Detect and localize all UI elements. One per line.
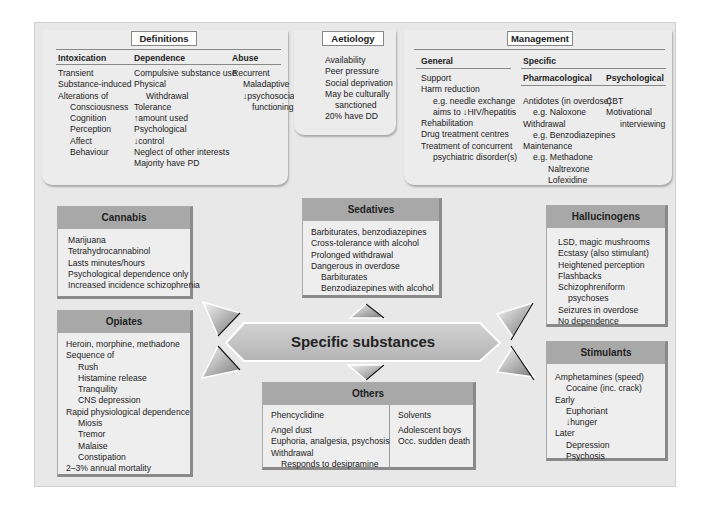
list-item: Angel dust — [271, 425, 389, 436]
opiates-title: Opiates — [58, 311, 190, 333]
sedatives-list: Barbiturates, benzodiazepinesCross-toler… — [311, 227, 434, 295]
list-item: psychoses — [558, 293, 650, 304]
list-item: Cross-tolerance with alcohol — [311, 238, 434, 249]
list-item: Lasts minutes/hours — [68, 258, 200, 269]
list-item: Histamine release — [66, 373, 190, 384]
list-item: Rapid physiological dependence — [66, 407, 190, 418]
others-title: Others — [263, 383, 473, 405]
list-item: Ecstasy (also stimulant) — [558, 248, 650, 259]
solvents-heading: Solvents — [398, 410, 431, 421]
list-item: Rush — [66, 362, 190, 373]
list-item: Euphoria, analgesia, psychosis — [271, 436, 389, 447]
list-item: Withdrawal — [271, 448, 389, 459]
arrow-up-sedatives — [350, 304, 384, 318]
list-item: Benzodiazepines with alcohol — [311, 283, 434, 294]
stimulants-box: Stimulants Amphetamines (speed)Cocaine (… — [546, 341, 668, 461]
cannabis-title: Cannabis — [58, 207, 190, 229]
list-item: Responds to desipramine — [271, 459, 389, 470]
opiates-list: Heroin, morphine, methadoneSequence ofRu… — [66, 339, 190, 475]
cannabis-list: MarijuanaTetrahydrocannabinolLasts minut… — [68, 235, 200, 291]
list-item: Schizophreniform — [558, 282, 650, 293]
list-item: Euphoriant — [555, 406, 644, 417]
list-item: Miosis — [66, 418, 190, 429]
list-item: Barbiturates, benzodiazepines — [311, 227, 434, 238]
list-item: Amphetamines (speed) — [555, 372, 644, 383]
list-item: Seizures in overdose — [558, 305, 650, 316]
list-item: Tremor — [66, 429, 190, 440]
list-item: Flashbacks — [558, 271, 650, 282]
phencyclidine-list: Angel dustEuphoria, analgesia, psychosis… — [271, 425, 389, 470]
solvents-list: Adolescent boysOcc. sudden death — [398, 425, 470, 448]
list-item: Later — [555, 428, 644, 439]
list-item: Constipation — [66, 452, 190, 463]
list-item: 2–3% annual mortality — [66, 463, 190, 474]
list-item: Heightened perception — [558, 260, 650, 271]
list-item: Malaise — [66, 441, 190, 452]
list-item: Tranquility — [66, 384, 190, 395]
arrow-right-upper — [497, 303, 533, 337]
others-box: Others Phencyclidine Angel dustEuphoria,… — [262, 382, 476, 470]
list-item: LSD, magic mushrooms — [558, 237, 650, 248]
opiates-box: Opiates Heroin, morphine, methadoneSeque… — [57, 310, 193, 477]
list-item: No dependence — [558, 316, 650, 327]
center-label: Specific substances — [226, 333, 500, 351]
list-item: ↓hunger — [555, 417, 644, 428]
hallucinogens-list: LSD, magic mushroomsEcstasy (also stimul… — [558, 237, 650, 327]
hallucinogens-title: Hallucinogens — [547, 206, 665, 228]
phencyclidine-heading: Phencyclidine — [271, 410, 324, 421]
list-item: CNS depression — [66, 395, 190, 406]
list-item: Sequence of — [66, 350, 190, 361]
list-item: Early — [555, 395, 644, 406]
list-item: Barbiturates — [311, 272, 434, 283]
list-item: Adolescent boys — [398, 425, 470, 436]
list-item: Psychological dependence only — [68, 269, 200, 280]
cannabis-box: Cannabis MarijuanaTetrahydrocannabinolLa… — [57, 206, 193, 299]
arrow-down-others — [348, 365, 384, 380]
list-item: Psychosis — [555, 451, 644, 462]
stimulants-list: Amphetamines (speed)Cocaine (inc. crack)… — [555, 372, 644, 462]
stimulants-title: Stimulants — [547, 342, 665, 364]
list-item: Occ. sudden death — [398, 436, 470, 447]
list-item: Tetrahydrocannabinol — [68, 246, 200, 257]
list-item: Prolonged withdrawal — [311, 250, 434, 261]
list-item: Marijuana — [68, 235, 200, 246]
sedatives-box: Sedatives Barbiturates, benzodiazepinesC… — [302, 198, 442, 298]
hallucinogens-box: Hallucinogens LSD, magic mushroomsEcstas… — [546, 205, 668, 327]
sedatives-title: Sedatives — [303, 199, 439, 221]
list-item: Heroin, morphine, methadone — [66, 339, 190, 350]
list-item: Dangerous in overdose — [311, 261, 434, 272]
list-item: Cocaine (inc. crack) — [555, 383, 644, 394]
list-item: Increased incidence schizophrenia — [68, 280, 200, 291]
list-item: Depression — [555, 440, 644, 451]
